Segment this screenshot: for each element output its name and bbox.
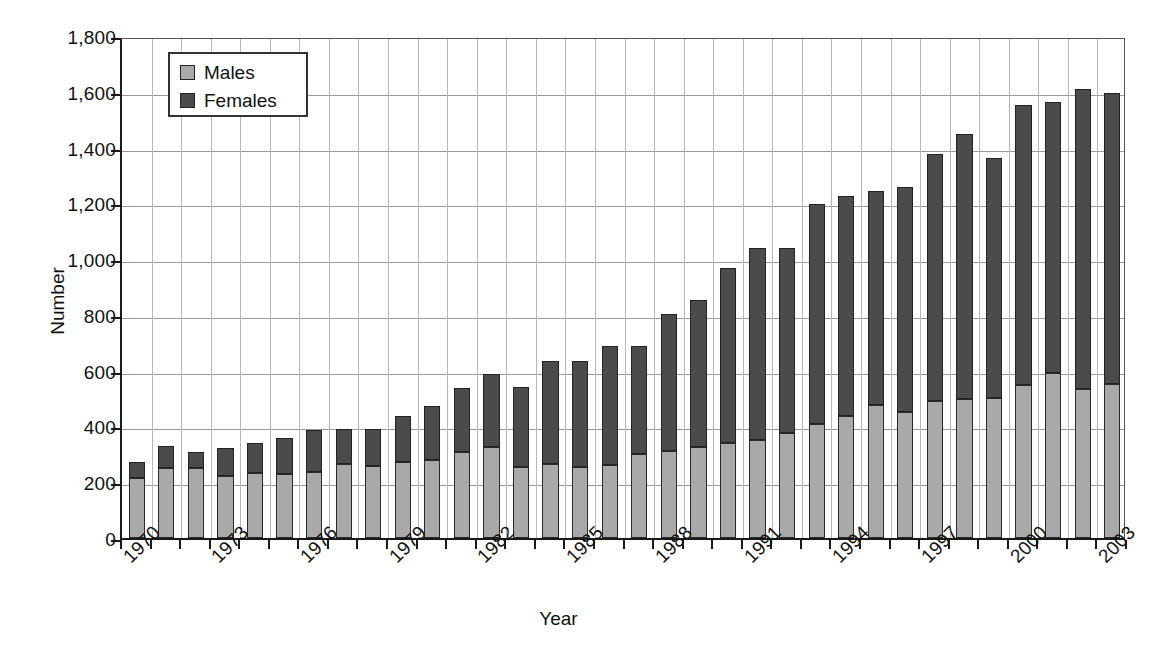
- bar-segment-males: [158, 468, 174, 538]
- bar-segment-females: [542, 361, 558, 464]
- bar-segment-males: [868, 405, 884, 538]
- bar-1987: [631, 346, 647, 538]
- x-gridline: [1038, 39, 1039, 538]
- bar-segment-males: [247, 473, 263, 538]
- bar-1989: [690, 300, 706, 538]
- bar-1979: [395, 416, 411, 538]
- bar-1974: [247, 443, 263, 538]
- bar-segment-females: [927, 154, 943, 401]
- x-gridline: [418, 39, 419, 538]
- bar-segment-males: [1015, 385, 1031, 538]
- bar-segment-females: [217, 448, 233, 476]
- bar-segment-females: [424, 406, 440, 460]
- bar-segment-males: [542, 464, 558, 538]
- y-gridline: [122, 262, 1124, 263]
- y-axis-tick-label: 600: [84, 362, 116, 384]
- x-gridline: [713, 39, 714, 538]
- bar-segment-males: [631, 454, 647, 538]
- bar-segment-females: [749, 248, 765, 440]
- bar-segment-females: [779, 248, 795, 433]
- x-gridline: [477, 39, 478, 538]
- bar-segment-females: [306, 430, 322, 473]
- legend-item-males: Males: [180, 58, 306, 86]
- bar-segment-females: [986, 158, 1002, 398]
- bar-segment-females: [336, 429, 352, 464]
- bar-segment-males: [483, 447, 499, 538]
- y-gridline: [122, 318, 1124, 319]
- x-gridline: [772, 39, 773, 538]
- bar-1971: [158, 446, 174, 538]
- bar-segment-males: [454, 452, 470, 538]
- y-axis-tick-label: 1,800: [67, 27, 116, 49]
- bar-segment-females: [395, 416, 411, 462]
- legend-item-females: Females: [180, 86, 306, 114]
- y-axis-tick-label: 200: [84, 473, 116, 495]
- x-gridline: [654, 39, 655, 538]
- x-gridline: [1097, 39, 1098, 538]
- x-gridline: [625, 39, 626, 538]
- bar-2002: [1075, 89, 1091, 538]
- x-gridline: [329, 39, 330, 538]
- bar-segment-males: [927, 401, 943, 538]
- bar-segment-males: [897, 412, 913, 538]
- bar-1980: [424, 406, 440, 538]
- x-gridline: [536, 39, 537, 538]
- y-axis-tick-label: 1,400: [67, 139, 116, 161]
- bar-1999: [986, 158, 1002, 538]
- bar-segment-females: [1104, 93, 1120, 384]
- bar-2003: [1104, 93, 1120, 538]
- bar-1988: [661, 314, 677, 538]
- legend-label-males: Males: [204, 63, 255, 82]
- legend-swatch-females-icon: [180, 93, 195, 108]
- x-gridline: [506, 39, 507, 538]
- x-gridline: [861, 39, 862, 538]
- x-axis-tick: [268, 540, 270, 549]
- bar-segment-females: [483, 374, 499, 447]
- y-gridline: [122, 374, 1124, 375]
- x-axis-tick: [179, 540, 181, 549]
- y-axis-tick-label: 800: [84, 306, 116, 328]
- bar-1973: [217, 448, 233, 538]
- bar-segment-females: [897, 187, 913, 412]
- bar-1982: [483, 374, 499, 538]
- bar-segment-females: [276, 438, 292, 474]
- bar-segment-females: [188, 452, 204, 467]
- x-axis-tick: [534, 540, 536, 549]
- bar-segment-males: [513, 467, 529, 538]
- bar-segment-females: [1045, 102, 1061, 374]
- bar-1978: [365, 429, 381, 538]
- bar-1977: [336, 429, 352, 538]
- bar-segment-females: [454, 388, 470, 452]
- x-gridline: [358, 39, 359, 538]
- x-axis-tick: [800, 540, 802, 549]
- bar-1996: [897, 187, 913, 538]
- bar-segment-females: [690, 300, 706, 448]
- bar-1993: [809, 204, 825, 538]
- bar-1994: [838, 196, 854, 538]
- x-gridline: [595, 39, 596, 538]
- bar-segment-males: [690, 447, 706, 538]
- bar-segment-males: [1104, 384, 1120, 538]
- x-gridline: [831, 39, 832, 538]
- bar-segment-females: [129, 462, 145, 478]
- bar-segment-males: [779, 433, 795, 538]
- legend-swatch-males-icon: [180, 65, 195, 80]
- bar-segment-males: [809, 424, 825, 538]
- y-axis-tick-label: 1,000: [67, 250, 116, 272]
- x-axis-tick: [711, 540, 713, 549]
- bar-segment-males: [188, 468, 204, 538]
- bar-1991: [749, 248, 765, 538]
- bar-segment-males: [661, 451, 677, 538]
- x-axis-tick: [356, 540, 358, 549]
- bar-segment-males: [365, 466, 381, 539]
- bar-segment-females: [868, 191, 884, 405]
- x-axis-tick: [120, 540, 122, 549]
- chart-legend: Males Females: [168, 52, 308, 117]
- x-gridline: [802, 39, 803, 538]
- bar-segment-males: [1075, 389, 1091, 538]
- x-gridline: [920, 39, 921, 538]
- bar-segment-males: [838, 416, 854, 538]
- x-gridline: [1068, 39, 1069, 538]
- bar-segment-females: [1075, 89, 1091, 389]
- bar-segment-females: [572, 361, 588, 466]
